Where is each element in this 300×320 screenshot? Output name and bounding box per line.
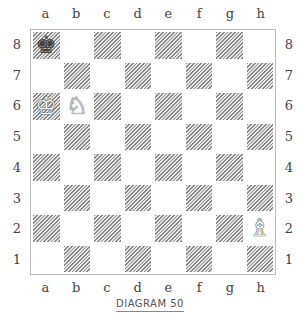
square-h5: [245, 122, 276, 153]
square-g4: [214, 152, 245, 183]
black-king-icon: ♚: [35, 33, 57, 57]
square-e8: [153, 30, 184, 61]
square-d7: [123, 61, 154, 92]
square-a1: [31, 244, 62, 275]
file-label: c: [92, 6, 123, 21]
square-c4: [92, 152, 123, 183]
square-c1: [92, 244, 123, 275]
square-f8: [184, 30, 215, 61]
square-e1: [153, 244, 184, 275]
square-b7: [62, 61, 93, 92]
square-e6: [153, 91, 184, 122]
white-knight-icon: ♘: [66, 94, 88, 118]
square-a7: [31, 61, 62, 92]
square-f7: [184, 61, 215, 92]
square-h1: [245, 244, 276, 275]
rank-label: 8: [282, 29, 296, 60]
rank-label: 5: [282, 121, 296, 152]
square-d6: [123, 91, 154, 122]
rank-label: 1: [10, 244, 24, 275]
square-e2: [153, 213, 184, 244]
file-labels-top: a b c d e f g h: [30, 6, 276, 21]
rank-label: 2: [10, 214, 24, 245]
rank-label: 8: [10, 29, 24, 60]
square-a2: [31, 213, 62, 244]
square-c2: [92, 213, 123, 244]
square-d3: [123, 183, 154, 214]
square-e3: [153, 183, 184, 214]
rank-labels-right: 8 7 6 5 4 3 2 1: [282, 29, 296, 275]
square-h2: ♗: [245, 213, 276, 244]
square-e5: [153, 122, 184, 153]
file-label: b: [61, 280, 92, 295]
file-label: g: [215, 280, 246, 295]
file-label: d: [122, 280, 153, 295]
square-b3: [62, 183, 93, 214]
chess-board: ♚♔♘♗: [30, 29, 276, 275]
square-g7: [214, 61, 245, 92]
square-g5: [214, 122, 245, 153]
file-label: h: [245, 6, 276, 21]
square-c6: [92, 91, 123, 122]
rank-label: 6: [10, 91, 24, 122]
square-c7: [92, 61, 123, 92]
square-e7: [153, 61, 184, 92]
rank-label: 7: [282, 60, 296, 91]
rank-label: 4: [282, 152, 296, 183]
square-c8: [92, 30, 123, 61]
square-c3: [92, 183, 123, 214]
square-b4: [62, 152, 93, 183]
square-h6: [245, 91, 276, 122]
file-label: f: [184, 280, 215, 295]
caption-text: DIAGRAM 50: [116, 298, 184, 312]
rank-label: 5: [10, 121, 24, 152]
white-king-icon: ♔: [35, 94, 57, 118]
file-label: f: [184, 6, 215, 21]
rank-label: 1: [282, 244, 296, 275]
diagram-caption: DIAGRAM 50: [0, 298, 300, 309]
square-d1: [123, 244, 154, 275]
square-d5: [123, 122, 154, 153]
square-h8: [245, 30, 276, 61]
square-h4: [245, 152, 276, 183]
file-label: b: [61, 6, 92, 21]
square-f6: [184, 91, 215, 122]
rank-label: 7: [10, 60, 24, 91]
square-b2: [62, 213, 93, 244]
square-d8: [123, 30, 154, 61]
square-f5: [184, 122, 215, 153]
square-g8: [214, 30, 245, 61]
rank-label: 4: [10, 152, 24, 183]
square-f2: [184, 213, 215, 244]
rank-label: 2: [282, 214, 296, 245]
square-b1: [62, 244, 93, 275]
file-label: d: [122, 6, 153, 21]
square-a4: [31, 152, 62, 183]
square-g1: [214, 244, 245, 275]
square-b8: [62, 30, 93, 61]
square-g3: [214, 183, 245, 214]
square-g6: [214, 91, 245, 122]
square-a5: [31, 122, 62, 153]
file-label: h: [245, 280, 276, 295]
square-a6: ♔: [31, 91, 62, 122]
square-h3: [245, 183, 276, 214]
square-f4: [184, 152, 215, 183]
square-f3: [184, 183, 215, 214]
file-labels-bottom: a b c d e f g h: [30, 280, 276, 295]
square-c5: [92, 122, 123, 153]
square-d4: [123, 152, 154, 183]
rank-label: 3: [282, 183, 296, 214]
square-g2: [214, 213, 245, 244]
rank-labels-left: 8 7 6 5 4 3 2 1: [10, 29, 24, 275]
file-label: c: [92, 280, 123, 295]
rank-label: 6: [282, 91, 296, 122]
file-label: g: [215, 6, 246, 21]
square-e4: [153, 152, 184, 183]
square-h7: [245, 61, 276, 92]
square-d2: [123, 213, 154, 244]
square-a3: [31, 183, 62, 214]
file-label: a: [30, 6, 61, 21]
file-label: e: [153, 280, 184, 295]
file-label: e: [153, 6, 184, 21]
